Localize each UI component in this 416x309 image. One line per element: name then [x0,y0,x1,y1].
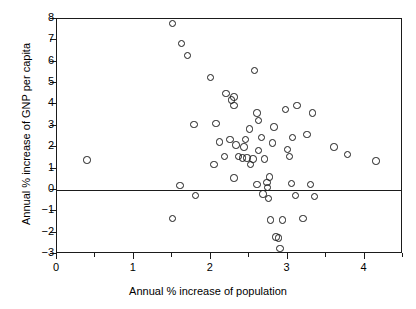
data-point [212,120,219,127]
data-point [192,192,199,199]
plot-area [56,18,402,253]
x-axis-tick-label: 0 [41,262,71,273]
data-point [216,138,223,145]
data-point [242,136,249,143]
data-point [286,153,293,160]
data-point [258,134,265,141]
data-point [288,180,295,187]
data-point [269,139,276,146]
y-axis-tick-label: 0 [14,183,54,194]
y-axis-tick-label: 8 [14,12,54,23]
data-point [169,215,176,222]
data-point [344,151,351,158]
data-point [253,109,260,116]
data-point [255,117,262,124]
x-axis-minor-tick [171,253,172,257]
data-point [232,141,239,148]
data-point [240,143,247,150]
zero-reference-line [57,190,401,191]
data-point [309,109,316,116]
data-point [372,157,379,164]
x-axis-tick [133,253,134,259]
data-point [267,216,274,223]
data-point [289,134,296,141]
scatter-plot-figure: Annual % increase of GNP per capita Annu… [0,0,416,309]
data-point [255,147,262,154]
x-axis-tick [210,253,211,259]
data-point [210,161,217,168]
x-axis-tick [56,253,57,259]
y-axis-tick-label: 5 [14,76,54,87]
data-point [249,155,256,162]
y-axis-tick-label: 1 [14,162,54,173]
data-point [230,93,237,100]
x-axis-tick-label: 3 [272,262,302,273]
data-point [176,182,183,189]
data-point [330,143,337,150]
data-point [265,195,272,202]
data-point [251,67,258,74]
data-point [270,123,277,130]
data-point [307,181,314,188]
data-point [299,215,306,222]
x-axis-tick [364,253,365,259]
data-point [276,245,283,252]
x-axis-minor-tick [94,253,95,257]
x-axis-minor-tick [248,253,249,257]
y-axis-tick-label: 7 [14,33,54,44]
data-point [207,74,214,81]
y-axis-tick-label: 2 [14,140,54,151]
y-axis-tick-label: −1 [14,204,54,215]
data-point [230,102,237,109]
data-point [178,40,185,47]
data-point [246,125,253,132]
y-axis-tick-label: 6 [14,55,54,66]
data-point [293,102,300,109]
data-point [292,192,299,199]
data-point [266,173,273,180]
x-axis-minor-tick [402,253,403,257]
data-point [282,106,289,113]
data-point [83,156,90,163]
x-axis-minor-tick [325,253,326,257]
x-axis-tick-label: 1 [118,262,148,273]
data-point [284,146,291,153]
x-axis-tick [287,253,288,259]
data-point [221,153,228,160]
data-point [253,181,260,188]
x-axis-tick-label: 4 [349,262,379,273]
data-point [230,174,237,181]
y-axis-tick-label: 4 [14,97,54,108]
y-axis-tick-label: −3 [14,247,54,258]
data-point [261,155,268,162]
data-point [275,234,282,241]
y-axis-tick-label: 3 [14,119,54,130]
data-point [184,52,191,59]
y-axis-title: Annual % increase of GNP per capita [20,17,32,252]
data-point [169,20,176,27]
data-point [279,216,286,223]
x-axis-tick-label: 2 [195,262,225,273]
y-axis-tick-label: −2 [14,226,54,237]
x-axis-title: Annual % increase of population [0,285,416,297]
data-point [311,193,318,200]
data-point [303,131,310,138]
data-point [190,121,197,128]
